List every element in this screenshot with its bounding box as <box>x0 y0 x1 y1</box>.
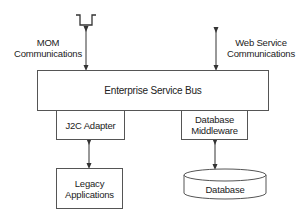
db-middleware-line2: Middleware <box>191 125 238 136</box>
database-label-text: Database <box>205 184 244 195</box>
database-label: Database <box>184 184 266 195</box>
database-middleware-box: Database Middleware <box>181 110 248 140</box>
queue-icon <box>76 15 96 25</box>
esb-label: Enterprise Service Bus <box>104 85 201 96</box>
enterprise-service-bus-box: Enterprise Service Bus <box>37 70 269 111</box>
mom-label-line1: MOM <box>10 37 86 48</box>
mom-label-line2: Communications <box>10 48 86 59</box>
j2c-adapter-box: J2C Adapter <box>56 110 125 140</box>
j2c-adapter-label: J2C Adapter <box>65 120 115 131</box>
web-service-label-line2: Communications <box>222 48 300 59</box>
legacy-applications-box: Legacy Applications <box>56 168 123 209</box>
web-service-label-line1: Web Service <box>222 37 300 48</box>
db-middleware-line1: Database <box>195 114 234 125</box>
mom-communications-label: MOM Communications <box>10 37 86 59</box>
web-service-communications-label: Web Service Communications <box>222 37 300 59</box>
legacy-line2: Applications <box>65 189 114 200</box>
legacy-line1: Legacy <box>75 178 104 189</box>
